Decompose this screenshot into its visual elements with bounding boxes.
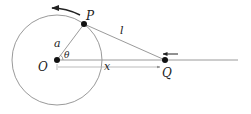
label-l: l bbox=[120, 24, 124, 37]
label-theta: θ bbox=[64, 50, 70, 60]
crank-arm bbox=[57, 24, 84, 60]
angle-theta-arc bbox=[61, 55, 63, 60]
rotation-arrow-icon bbox=[52, 8, 80, 15]
crank-slider-diagram: P O Q a l θ x bbox=[0, 0, 251, 114]
point-Q bbox=[162, 57, 168, 63]
connecting-rod bbox=[84, 24, 165, 60]
label-a: a bbox=[54, 37, 61, 50]
point-O bbox=[54, 57, 60, 63]
label-O: O bbox=[38, 60, 48, 74]
label-Q: Q bbox=[162, 66, 172, 80]
label-P: P bbox=[85, 9, 95, 23]
label-x: x bbox=[104, 60, 111, 73]
